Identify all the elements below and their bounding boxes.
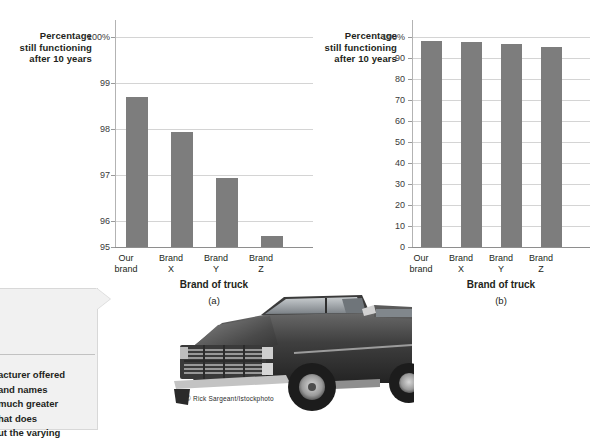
ytick-mark-20 xyxy=(408,205,412,206)
chart-a-category-our-brand: Our brand xyxy=(104,253,148,275)
ytick-mark-30 xyxy=(408,184,412,185)
chart-panel-a: Percentage still functioning after 10 ye… xyxy=(0,0,320,310)
ytick-mark-97 xyxy=(111,175,115,176)
chart-a-plot-area xyxy=(115,20,313,248)
chart-b-figure-caption: (b) xyxy=(412,295,590,306)
chart-a-ytick-label-95: 95 xyxy=(78,243,110,252)
chart-b-ytick-label-80: 80 xyxy=(372,75,405,84)
ytick-mark-40 xyxy=(408,163,412,164)
category-line-1: Brand xyxy=(440,253,482,264)
category-line-2: X xyxy=(440,264,482,275)
chart-b-plot-area xyxy=(412,20,590,248)
chart-panel-b: Percentage still functioning after 10 ye… xyxy=(310,0,599,300)
chart-b-category-brand-y: Brand Y xyxy=(480,253,522,275)
ytick-mark-100 xyxy=(111,37,115,38)
category-line-2: Y xyxy=(194,264,238,275)
bar-brand-z xyxy=(261,236,283,247)
y-axis-title-line-2: still functioning xyxy=(10,42,92,54)
chart-b-category-brand-z: Brand Z xyxy=(520,253,562,275)
category-line-2: X xyxy=(149,264,193,275)
category-line-1: Our xyxy=(400,253,442,264)
chart-b-ytick-label-10: 10 xyxy=(372,222,405,231)
chart-a-ytick-label-97: 97 xyxy=(78,171,110,180)
photo-credit: © Rick Sargeant/Istockphoto xyxy=(186,395,274,402)
truck-photo-svg xyxy=(166,283,414,425)
bar-our-brand xyxy=(421,41,442,247)
chart-b-ytick-label-70: 70 xyxy=(372,96,405,105)
chart-b-category-our-brand: Our brand xyxy=(400,253,442,275)
category-line-1: Brand xyxy=(239,253,283,264)
ytick-mark-70 xyxy=(408,100,412,101)
ytick-mark-0 xyxy=(408,247,412,248)
category-line-2: brand xyxy=(104,264,148,275)
callout-text: acturer offered and names much greater h… xyxy=(0,368,106,441)
category-line-1: Brand xyxy=(520,253,562,264)
chart-b-category-brand-x: Brand X xyxy=(440,253,482,275)
callout-divider xyxy=(0,354,95,355)
chart-b-ytick-label-20: 20 xyxy=(372,201,405,210)
chart-b-ytick-label-50: 50 xyxy=(372,138,405,147)
ytick-mark-50 xyxy=(408,142,412,143)
ytick-mark-10 xyxy=(408,226,412,227)
ytick-mark-96 xyxy=(111,221,115,222)
chart-b-ytick-label-100: 100% xyxy=(372,33,405,42)
bar-our-brand xyxy=(126,97,148,247)
chart-b-ytick-label-40: 40 xyxy=(372,159,405,168)
chart-b-ytick-label-60: 60 xyxy=(372,117,405,126)
bar-brand-x xyxy=(171,132,193,247)
bar-brand-y xyxy=(216,178,238,247)
ytick-mark-98 xyxy=(111,129,115,130)
category-line-1: Brand xyxy=(149,253,193,264)
chart-a-ytick-label-98: 98 xyxy=(78,125,110,134)
ytick-mark-90 xyxy=(408,58,412,59)
category-line-1: Our xyxy=(104,253,148,264)
chart-a-category-brand-x: Brand X xyxy=(149,253,193,275)
y-axis-title-line-3: after 10 years xyxy=(10,53,92,65)
chart-a-ytick-label-96: 96 xyxy=(78,217,110,226)
chart-a-ytick-label-99: 99 xyxy=(78,79,110,88)
bar-brand-z xyxy=(541,47,562,247)
bar-brand-x xyxy=(461,42,482,247)
category-line-2: Z xyxy=(520,264,562,275)
chart-b-x-axis-line xyxy=(412,247,590,248)
ytick-mark-60 xyxy=(408,121,412,122)
callout-tail xyxy=(96,288,110,310)
chart-b-ytick-label-90: 90 xyxy=(372,54,405,63)
chart-b-x-axis-title: Brand of truck xyxy=(412,279,590,290)
chart-a-y-axis-line xyxy=(115,20,116,247)
chart-a-category-brand-y: Brand Y xyxy=(194,253,238,275)
chart-a-x-axis-line xyxy=(115,247,313,248)
gridline-100 xyxy=(115,37,313,38)
bar-brand-y xyxy=(501,44,522,247)
y-axis-title-line-2: still functioning xyxy=(315,42,397,54)
chart-a-ytick-label-100: 100% xyxy=(78,33,110,42)
ytick-mark-80 xyxy=(408,79,412,80)
category-line-2: Y xyxy=(480,264,522,275)
chart-b-y-axis-line xyxy=(412,20,413,247)
ytick-mark-100 xyxy=(408,37,412,38)
ytick-mark-95 xyxy=(111,247,115,248)
ytick-mark-99 xyxy=(111,83,115,84)
gridline-99 xyxy=(115,83,313,84)
category-line-1: Brand xyxy=(480,253,522,264)
truck-photo: © Rick Sargeant/Istockphoto xyxy=(166,283,414,425)
chart-a-category-brand-z: Brand Z xyxy=(239,253,283,275)
chart-b-ytick-label-0: 0 xyxy=(372,243,405,252)
category-line-2: brand xyxy=(400,264,442,275)
category-line-1: Brand xyxy=(194,253,238,264)
gridline-100 xyxy=(412,37,590,38)
category-line-2: Z xyxy=(239,264,283,275)
chart-b-ytick-label-30: 30 xyxy=(372,180,405,189)
